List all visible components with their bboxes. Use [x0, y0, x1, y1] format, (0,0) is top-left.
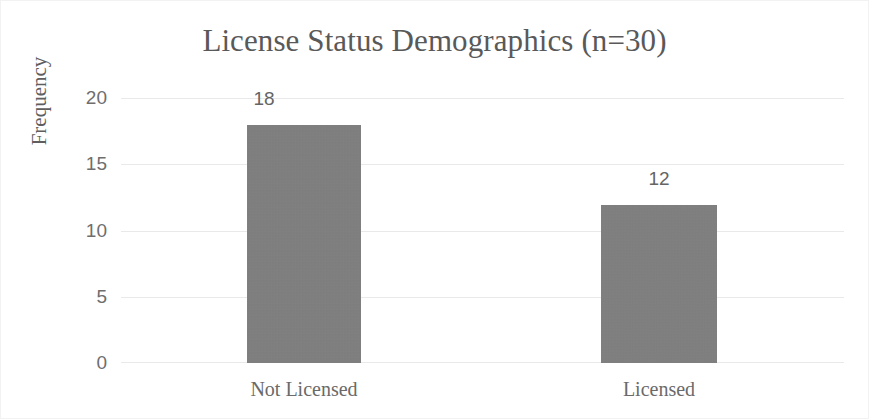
- gridline-0: [121, 362, 844, 363]
- plot-area: [121, 98, 844, 363]
- y-axis-tick-labels: 20 15 10 5 0: [47, 98, 107, 363]
- gridline-5: [121, 297, 844, 298]
- y-tick-label-20: 20: [47, 87, 107, 109]
- chart-title: License Status Demographics (n=30): [1, 23, 868, 59]
- y-tick-label-10: 10: [47, 220, 107, 242]
- bar-not-licensed[interactable]: [247, 125, 361, 363]
- bar-licensed[interactable]: [601, 205, 717, 363]
- x-tick-label-licensed: Licensed: [539, 378, 779, 401]
- y-tick-label-5: 5: [47, 286, 107, 308]
- y-tick-label-0: 0: [47, 352, 107, 374]
- gridline-15: [121, 164, 844, 165]
- bar-value-label-not-licensed: 18: [144, 88, 384, 110]
- bar-value-label-licensed: 12: [539, 168, 779, 190]
- bar-chart-figure: License Status Demographics (n=30) Frequ…: [0, 0, 869, 419]
- x-tick-label-not-licensed: Not Licensed: [184, 378, 424, 401]
- gridline-10: [121, 231, 844, 232]
- y-tick-label-15: 15: [47, 153, 107, 175]
